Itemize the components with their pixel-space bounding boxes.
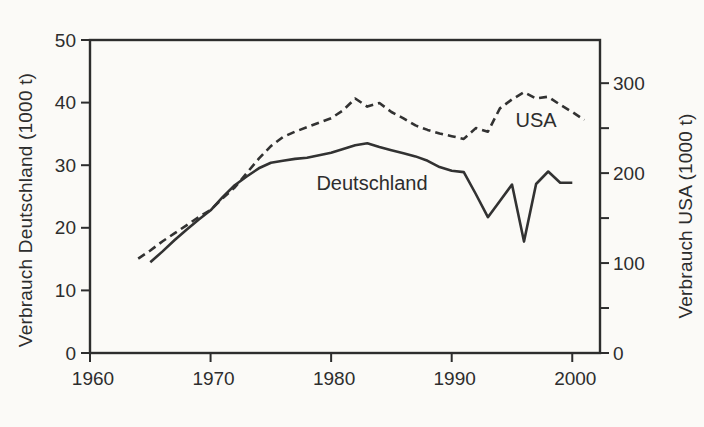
left-axis-title: Verbrauch Deutschland (1000 t): [15, 73, 36, 347]
series-line-deutschland: [150, 143, 572, 262]
plot-frame-border: [90, 40, 600, 353]
left-tick-label-0: 0: [65, 343, 76, 364]
x-axis-ticks: 19601970198019902000: [72, 353, 597, 389]
right-axis-ticks: 0100200300: [600, 73, 645, 364]
plot-frame: [90, 40, 600, 353]
left-tick-label-20: 20: [55, 217, 76, 238]
right-tick-label-0: 0: [613, 343, 624, 364]
left-tick-label-50: 50: [55, 30, 76, 51]
x-tick-label-1980: 1980: [313, 368, 355, 389]
left-axis-ticks: 01020304050: [55, 30, 90, 364]
scanned-line-chart: 19601970198019902000 01020304050 0100200…: [0, 0, 704, 427]
x-tick-label-1970: 1970: [192, 368, 234, 389]
series-label-usa: USA: [515, 109, 557, 131]
right-tick-label-300: 300: [613, 73, 645, 94]
right-tick-label-200: 200: [613, 163, 645, 184]
right-axis-title: Verbrauch USA (1000 t): [675, 113, 696, 318]
left-tick-label-10: 10: [55, 280, 76, 301]
series-label-deutschland: Deutschland: [316, 172, 427, 194]
x-tick-label-1990: 1990: [434, 368, 476, 389]
x-tick-label-1960: 1960: [72, 368, 114, 389]
chart-canvas: 19601970198019902000 01020304050 0100200…: [0, 0, 704, 427]
left-tick-label-30: 30: [55, 155, 76, 176]
x-tick-label-2000: 2000: [554, 368, 596, 389]
right-tick-label-100: 100: [613, 253, 645, 274]
left-tick-label-40: 40: [55, 92, 76, 113]
